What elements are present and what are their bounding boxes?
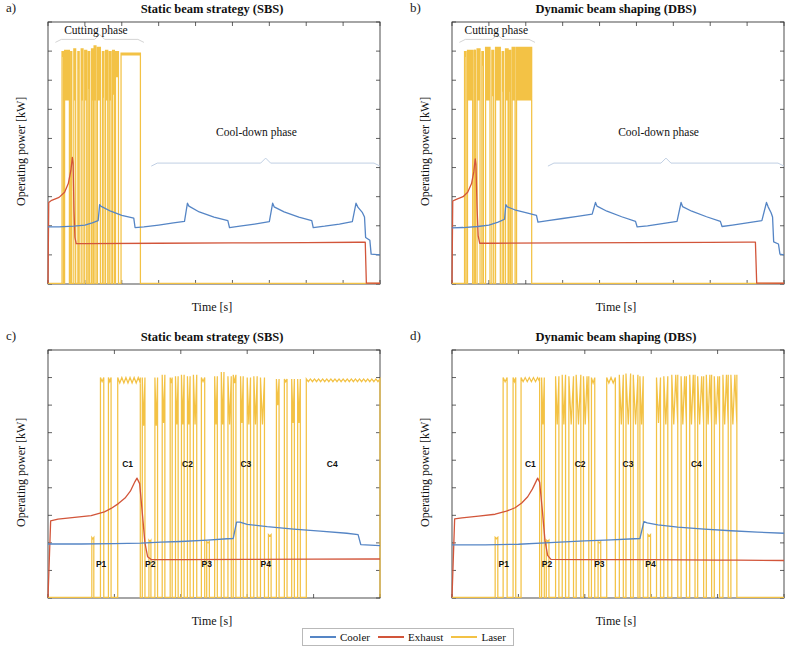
cut-label-c4: C4 <box>327 459 338 469</box>
series-cooler-c <box>48 522 380 545</box>
legend: CoolerExhaustLaser <box>302 628 514 646</box>
series-cooler-d <box>452 522 784 545</box>
y-axis-label-c: Operating power [kW] <box>14 418 29 527</box>
y-axis-label-a: Operating power [kW] <box>14 97 29 206</box>
panel-d: 01020304050024681012141618C1C2C3C4P1P2P3… <box>450 348 786 600</box>
figure-root: 020406080100120140160180024681012141618C… <box>0 0 805 648</box>
legend-label: Laser <box>481 631 505 643</box>
x-axis-label-b: Time [s] <box>450 300 782 315</box>
series-laser-a <box>48 45 380 283</box>
plot-area-d: 01020304050024681012141618C1C2C3C4P1P2P3… <box>450 348 786 600</box>
cutting-phase: Cutting phase <box>64 24 128 37</box>
pierce-label-p4: P4 <box>645 559 656 569</box>
legend-swatch-laser-icon <box>451 636 477 638</box>
panel-label-b: b) <box>410 0 421 16</box>
panel-title-a: Static beam strategy (SBS) <box>46 2 378 17</box>
cut-label-c3: C3 <box>240 459 251 469</box>
legend-label: Cooler <box>340 631 370 643</box>
cut-label-c2: C2 <box>182 459 193 469</box>
legend-swatch-exhaust-icon <box>378 636 404 638</box>
cool-down-phase: Cool-down phase <box>216 126 297 139</box>
y-axis-label-b: Operating power [kW] <box>418 97 433 206</box>
pierce-label-p4: P4 <box>261 559 272 569</box>
pierce-label-p3: P3 <box>594 559 605 569</box>
x-axis-label-c: Time [s] <box>46 614 378 629</box>
cut-label-c3: C3 <box>623 459 634 469</box>
panel-c: 01020304050024681012141618C1C2C3C4P1P2P3… <box>46 348 382 600</box>
panel-title-b: Dynamic beam shaping (DBS) <box>450 2 782 17</box>
legend-entry-exhaust[interactable]: Exhaust <box>378 631 443 643</box>
cut-label-c1: C1 <box>525 459 536 469</box>
legend-entry-cooler[interactable]: Cooler <box>310 631 370 643</box>
y-axis-label-d: Operating power [kW] <box>418 418 433 527</box>
cut-label-c2: C2 <box>575 459 586 469</box>
pierce-label-p3: P3 <box>201 559 212 569</box>
legend-label: Exhaust <box>408 631 443 643</box>
plot-area-b: 020406080100120140160180024681012141618C… <box>450 20 786 286</box>
panel-title-d: Dynamic beam shaping (DBS) <box>450 330 782 345</box>
series-exhaust-c <box>48 478 380 597</box>
cutting-phase: Cutting phase <box>464 24 528 37</box>
cool-down-brace <box>151 158 380 166</box>
plot-area-a: 020406080100120140160180024681012141618C… <box>46 20 382 286</box>
pierce-label-p2: P2 <box>145 559 156 569</box>
series-laser-b <box>452 47 784 284</box>
legend-entry-laser[interactable]: Laser <box>451 631 505 643</box>
legend-swatch-cooler-icon <box>310 636 336 638</box>
x-axis-label-a: Time [s] <box>46 300 378 315</box>
panel-label-a: a) <box>6 0 16 16</box>
pierce-label-p2: P2 <box>542 559 553 569</box>
x-axis-label-d: Time [s] <box>450 614 782 629</box>
panel-title-c: Static beam strategy (SBS) <box>46 330 378 345</box>
pierce-label-p1: P1 <box>499 559 510 569</box>
plot-area-c: 01020304050024681012141618C1C2C3C4P1P2P3… <box>46 348 382 600</box>
cut-label-c1: C1 <box>122 459 133 469</box>
panel-label-d: d) <box>410 328 421 344</box>
panel-a: 020406080100120140160180024681012141618C… <box>46 20 382 286</box>
panel-label-c: c) <box>6 328 16 344</box>
series-exhaust-d <box>452 478 784 597</box>
cool-down-phase: Cool-down phase <box>618 126 699 139</box>
cool-down-brace <box>548 158 784 166</box>
pierce-label-p1: P1 <box>96 559 107 569</box>
panel-b: 020406080100120140160180024681012141618C… <box>450 20 786 286</box>
cut-label-c4: C4 <box>691 459 702 469</box>
